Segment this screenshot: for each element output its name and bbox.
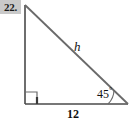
- hypotenuse-line: [25, 5, 128, 104]
- problem-number-text: 22.: [4, 2, 17, 13]
- problem-number-badge: 22.: [0, 0, 21, 14]
- base-length-label: 12: [67, 108, 79, 120]
- angle-value-text: 45: [97, 87, 109, 101]
- right-angle-marker-icon: [25, 92, 37, 104]
- degree-symbol-icon: °: [109, 86, 112, 95]
- triangle-diagram: [0, 0, 135, 121]
- hypotenuse-label: h: [74, 40, 81, 53]
- angle-label: 45°: [97, 88, 112, 100]
- geometry-figure: 22. h 45° 12: [0, 0, 135, 121]
